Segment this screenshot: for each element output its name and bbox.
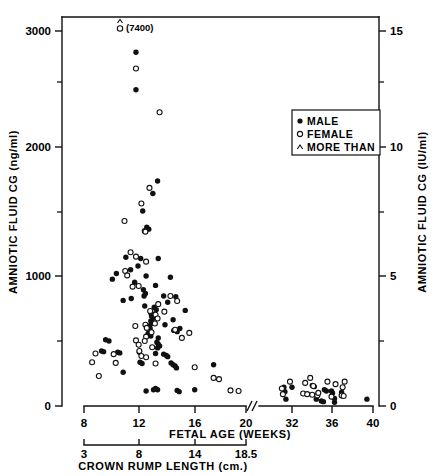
data-point-female <box>280 392 285 397</box>
legend-label-female: FEMALE <box>307 128 353 140</box>
data-point-female <box>122 219 127 224</box>
data-point-female <box>156 302 161 307</box>
data-point-male <box>154 307 159 312</box>
x-tick-label-40: 40 <box>367 417 380 429</box>
data-point-female <box>303 380 308 385</box>
data-point-male <box>117 350 122 355</box>
data-point-male <box>133 50 138 55</box>
data-point-female <box>143 229 148 234</box>
data-point-female <box>287 379 292 384</box>
data-point-male <box>143 388 148 393</box>
data-point-male <box>101 349 106 354</box>
data-point-male <box>165 354 170 359</box>
more-than-female-icon <box>117 20 122 32</box>
y-tick-label-1000: 1000 <box>25 270 51 282</box>
y-axis-left-ticks <box>55 31 62 406</box>
data-point-female <box>157 110 162 115</box>
plot-frame <box>62 17 379 406</box>
data-point-male <box>321 399 326 404</box>
data-point-female <box>144 355 149 360</box>
data-point-female <box>308 375 313 380</box>
y-tick-label-3000: 3000 <box>25 25 51 37</box>
data-point-female <box>128 250 133 255</box>
data-point-female <box>130 284 135 289</box>
crl-tick-label-14: 14 <box>189 448 202 460</box>
data-point-male <box>155 345 160 350</box>
data-point-female <box>305 392 310 397</box>
data-point-male <box>140 208 145 213</box>
data-point-male <box>114 271 119 276</box>
legend-label-male: MALE <box>307 115 339 127</box>
data-point-male <box>129 296 134 301</box>
offscale-annotation-label: (7400) <box>126 22 153 33</box>
data-point-male <box>162 322 167 327</box>
data-point-male <box>143 273 148 278</box>
data-point-female <box>136 342 141 347</box>
data-point-male <box>123 255 128 260</box>
data-point-male <box>110 276 115 281</box>
data-point-male <box>153 283 158 288</box>
data-point-female <box>329 394 334 399</box>
data-point-female <box>142 339 147 344</box>
data-point-male <box>142 303 147 308</box>
data-point-female <box>96 374 101 379</box>
y-tick-label-2000: 2000 <box>25 141 51 153</box>
data-point-male <box>211 362 216 367</box>
y-axis-left-title: AMNIOTIC FLUID CG (ng/ml) <box>7 130 19 294</box>
offscale-annotation: (7400) <box>117 20 153 34</box>
x-axis-secondary-title: CROWN RUMP LENGTH (cm.) <box>78 460 247 472</box>
x-axis-secondary-labels: 3 8 14 18.5 <box>81 448 258 460</box>
data-point-female <box>147 185 152 190</box>
chart-canvas: 0 1000 2000 3000 AMNIOTIC FLUID CG (ng/m… <box>0 0 441 476</box>
data-point-male <box>324 388 329 393</box>
data-point-male <box>106 338 111 343</box>
legend-label-more-than: MORE THAN <box>307 141 375 153</box>
data-point-female <box>93 351 98 356</box>
data-point-female <box>187 330 192 335</box>
data-point-male <box>156 256 161 261</box>
data-point-male <box>128 267 133 272</box>
data-point-male <box>139 361 144 366</box>
data-point-male <box>151 387 156 392</box>
data-point-female <box>144 259 149 264</box>
data-point-female <box>162 309 167 314</box>
y-axis-left-labels: 0 1000 2000 3000 <box>25 25 51 412</box>
data-point-male <box>176 389 181 394</box>
data-point-female <box>136 284 141 289</box>
x-axis-primary <box>84 401 373 413</box>
data-point-female <box>155 316 160 321</box>
data-point-female <box>111 352 116 357</box>
data-point-female <box>139 201 144 206</box>
data-point-female <box>144 325 149 330</box>
data-point-female <box>211 375 216 380</box>
data-point-female <box>333 382 338 387</box>
y-axis-right-labels: 0 5 10 15 <box>390 25 403 412</box>
crl-tick-label-3: 3 <box>81 448 87 460</box>
x-tick-label-12: 12 <box>133 417 146 429</box>
data-point-female <box>152 321 157 326</box>
data-point-male <box>168 275 173 280</box>
x-tick-label-8: 8 <box>81 417 88 429</box>
data-point-female <box>217 377 222 382</box>
data-point-female <box>340 385 345 390</box>
crl-tick-label-8: 8 <box>136 448 143 460</box>
data-point-male <box>135 263 140 268</box>
x-tick-label-36: 36 <box>326 417 339 429</box>
data-point-male <box>283 396 288 401</box>
data-point-male <box>289 385 294 390</box>
data-point-female <box>153 361 158 366</box>
data-point-male <box>170 317 175 322</box>
data-point-female <box>325 379 330 384</box>
data-point-female <box>310 392 315 397</box>
data-point-female <box>279 386 284 391</box>
data-points-layer <box>90 50 370 405</box>
y-right-tick-label-5: 5 <box>390 270 397 282</box>
data-point-male <box>120 370 125 375</box>
data-point-male <box>155 178 160 183</box>
x-axis-primary-title: FETAL AGE (WEEKS) <box>169 428 291 440</box>
data-point-female <box>311 384 316 389</box>
data-point-male <box>364 396 369 401</box>
data-point-male <box>120 298 125 303</box>
legend-female-open-circle-icon <box>297 131 302 136</box>
data-point-female <box>228 388 233 393</box>
